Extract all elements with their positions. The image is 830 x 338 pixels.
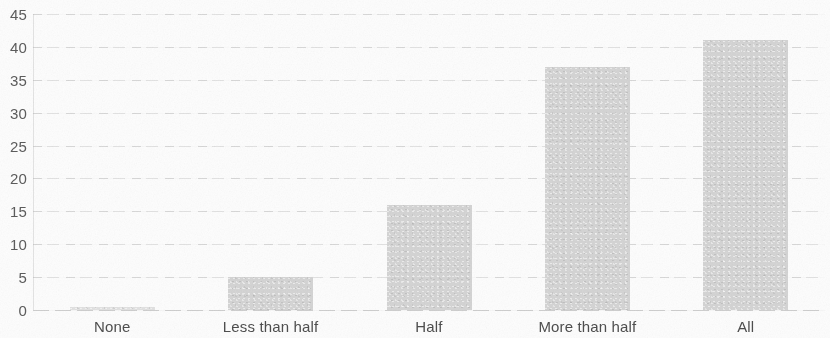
y-axis-tick-label: 30 [10, 104, 27, 121]
gridline [33, 310, 825, 311]
y-axis-tick-label: 5 [19, 269, 27, 286]
bar-half [387, 205, 472, 310]
x-axis-category-label: All [667, 318, 825, 335]
bar-chart: 051015202530354045 NoneLess than halfHal… [0, 0, 830, 338]
y-axis-tick-label: 35 [10, 71, 27, 88]
y-axis-tick-label: 15 [10, 203, 27, 220]
bar-less-than-half [228, 277, 313, 310]
bar-all [703, 40, 788, 310]
plot-area [33, 14, 825, 310]
x-axis-category-label: Half [350, 318, 508, 335]
bar-none [70, 307, 155, 310]
x-axis-category-label: Less than half [191, 318, 349, 335]
x-axis-category-label: More than half [508, 318, 666, 335]
y-axis-tick-label: 0 [19, 302, 27, 319]
bars-layer [33, 14, 825, 310]
bar-more-than-half [545, 67, 630, 310]
x-axis-category-label: None [33, 318, 191, 335]
x-axis: NoneLess than halfHalfMore than halfAll [33, 312, 825, 338]
y-axis-tick-label: 40 [10, 38, 27, 55]
y-axis-tick-label: 45 [10, 6, 27, 23]
y-axis-tick-label: 10 [10, 236, 27, 253]
y-axis-tick-label: 25 [10, 137, 27, 154]
y-axis-tick-label: 20 [10, 170, 27, 187]
y-axis: 051015202530354045 [0, 0, 33, 338]
